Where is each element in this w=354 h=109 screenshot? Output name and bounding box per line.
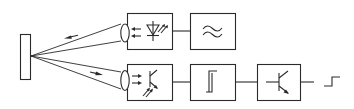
beam-arrow-left-icon [64,35,78,39]
step-signal-icon [324,77,340,86]
emitter-lens [121,24,129,42]
double-tilde-icon [203,26,222,37]
led-icon [147,21,168,41]
emitter-beam [31,24,121,56]
emit-arrows-icon [131,27,141,38]
receiver-beam [31,56,121,89]
oscillator-box [191,14,236,50]
schmitt-trigger-box [191,65,236,101]
beam-arrow-right-icon [90,72,103,76]
hysteresis-icon [206,71,217,92]
receive-arrows-icon [132,74,142,85]
output-stage-box [258,65,301,101]
receiver-lens [121,71,129,91]
transistor-icon [266,71,289,94]
reflector [21,35,31,80]
receiver-box [121,65,173,101]
phototransistor-icon [143,70,158,97]
emitter-box [121,14,173,50]
photoelectric-sensor-diagram: Retro-reflective photoelectric sensor: e… [0,0,354,109]
